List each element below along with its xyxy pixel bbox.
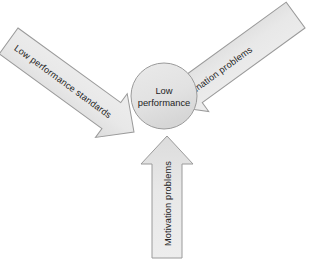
diagram-canvas: Low performance standards Coordination p… <box>0 0 321 279</box>
arrow-label-left: Low performance standards <box>12 43 113 120</box>
arrow-low-performance-standards[interactable]: Low performance standards <box>0 19 150 154</box>
arrow-motivation-problems[interactable]: Motivation problems <box>141 136 193 258</box>
diagram-svg: Low performance standards Coordination p… <box>0 0 321 279</box>
hub-circle[interactable] <box>131 63 197 129</box>
arrow-label-bottom: Motivation problems <box>163 161 173 246</box>
hub-label-line2: performance <box>138 97 191 108</box>
hub-label-line1: Low <box>155 85 172 96</box>
